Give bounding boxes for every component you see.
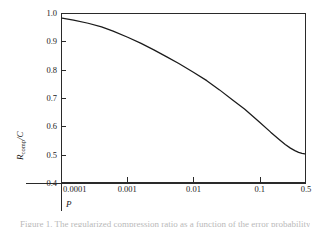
x-axis-tick-label: 0.0001 (63, 185, 86, 194)
x-axis-tick-label: 0.5 (301, 185, 312, 194)
y-axis-lower-stub (61, 183, 62, 211)
x-axis-tick-label: 0.1 (254, 185, 265, 194)
y-axis-tick (61, 41, 66, 42)
y-axis-tick (61, 98, 66, 99)
y-axis-tick-label: 0.9 (46, 37, 61, 46)
y-axis-title-tail: /C (14, 132, 24, 141)
y-axis-tick (61, 70, 66, 71)
x-axis-tick-label: 0.001 (118, 185, 137, 194)
figure-container: 0.40.50.60.70.80.91.0 0.00010.0010.010.1… (0, 0, 319, 227)
y-axis-tick (61, 126, 66, 127)
data-series-line (62, 18, 305, 154)
x-axis-tick (127, 177, 128, 183)
figure-caption: Figure 1. The regularized compression ra… (20, 219, 310, 227)
y-axis-tick (61, 155, 66, 156)
y-axis-title-base: R (14, 155, 24, 161)
y-axis-tick-label: 0.8 (46, 65, 61, 74)
y-axis-tick-label: 0.7 (46, 94, 61, 103)
y-axis-title-subscript: comp (19, 140, 26, 154)
y-axis-tick-label: 1.0 (46, 9, 61, 18)
y-axis-title: Rcomp/C (8, 104, 34, 188)
plot-area (61, 13, 306, 183)
x-axis-tick-label: 0.01 (186, 185, 201, 194)
x-axis-tick (260, 177, 261, 183)
x-axis-title: P (66, 200, 72, 209)
y-axis-tick-label: 0.6 (46, 122, 61, 131)
y-axis-tick-label: 0.5 (46, 150, 61, 159)
y-axis-tick (61, 13, 66, 14)
curve-svg (62, 14, 305, 182)
x-axis-tick (193, 177, 194, 183)
